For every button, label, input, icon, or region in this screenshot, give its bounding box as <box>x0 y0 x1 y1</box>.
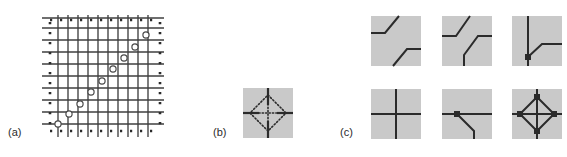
tile-2 <box>442 16 492 66</box>
tile-6-vertex-dot <box>551 111 557 117</box>
diagonal-marker <box>66 111 72 117</box>
diagonal-marker <box>121 55 127 61</box>
tile-6-vertex-dot <box>517 111 523 117</box>
diagonal-marker <box>110 66 116 72</box>
tile-3-vertex-dot <box>525 54 531 60</box>
tile-6 <box>512 89 562 139</box>
diagonal-markers <box>55 32 149 127</box>
tile-6-vertex-dot <box>534 128 540 134</box>
diagonal-marker <box>99 78 105 84</box>
diagonal-marker <box>77 101 83 107</box>
panel-label-b: (b) <box>213 126 226 138</box>
tile-6-vertex-dot <box>534 94 540 100</box>
tile-3-background <box>512 16 562 66</box>
panel-c-tiles <box>360 3 567 155</box>
tile-1 <box>371 16 421 66</box>
tile-5 <box>442 89 492 139</box>
tile-5-vertex-dot <box>454 111 460 117</box>
diagonal-marker <box>132 44 138 50</box>
panel-label-c: (c) <box>340 126 353 138</box>
panel-b-site <box>228 78 308 157</box>
tile-2-background <box>442 16 492 66</box>
diagonal-marker <box>88 89 94 95</box>
panel-label-a: (a) <box>8 126 21 138</box>
panel-a-lattice <box>0 4 190 144</box>
tile-3 <box>512 16 562 66</box>
tile-4 <box>371 89 421 139</box>
tile-1-background <box>371 16 421 66</box>
diagonal-marker <box>55 121 61 127</box>
figure-root: (a) (b) <box>0 0 567 157</box>
diagonal-marker <box>143 32 149 38</box>
